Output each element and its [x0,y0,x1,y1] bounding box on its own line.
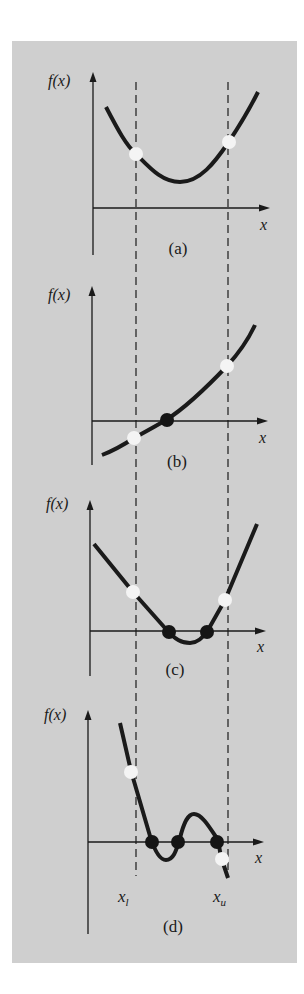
panel-caption: (d) [163,917,183,936]
panel-caption: (b) [167,452,187,471]
root-point [145,835,159,849]
lower-bound-point [124,765,138,779]
lower-bound-point [127,431,141,445]
panel-caption: (a) [169,239,188,258]
lower-bound-point [126,585,140,599]
root-point [160,413,174,427]
y-axis-label: f(x) [48,72,70,90]
x-axis-label: x [256,638,264,655]
root-point [162,625,176,639]
lower-bound-point [129,147,143,161]
upper-bound-point [215,852,229,866]
x-axis-label: x [254,849,262,866]
root-point [171,835,185,849]
y-axis-label: f(x) [44,706,66,724]
root-point [210,835,224,849]
x-axis-label: x [259,216,267,233]
panel-caption: (c) [166,660,185,679]
y-axis-label: f(x) [48,286,70,304]
upper-bound-point [218,593,232,607]
upper-bound-point [222,135,236,149]
x-axis-label: x [258,429,266,446]
upper-bound-point [220,359,234,373]
root-point [200,625,214,639]
bracketing-roots-figure: f(x) x (a) f(x) x (b) f(x) x [0,0,304,994]
y-axis-label: f(x) [46,495,68,513]
